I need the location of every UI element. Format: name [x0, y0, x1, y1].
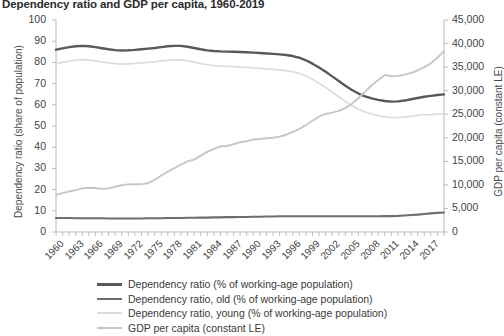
legend-item[interactable]: GDP per capita (constant LE): [97, 321, 387, 336]
legend-swatch-total: [97, 283, 122, 286]
series-line: [56, 213, 444, 219]
legend-label: GDP per capita (constant LE): [128, 322, 265, 334]
legend-label: Dependency ratio (% of working-age popul…: [128, 278, 353, 290]
legend-swatch-old: [97, 298, 122, 300]
legend-item[interactable]: Dependency ratio, old (% of working-age …: [97, 292, 387, 307]
legend-item[interactable]: Dependency ratio (% of working-age popul…: [97, 277, 387, 292]
series-line: [56, 60, 444, 118]
legend-label: Dependency ratio, old (% of working-age …: [128, 293, 373, 305]
legend-label: Dependency ratio, young (% of working-ag…: [128, 307, 387, 319]
series-line: [56, 46, 444, 102]
legend-swatch-gdp: [97, 327, 122, 329]
chart-legend: Dependency ratio (% of working-age popul…: [97, 277, 387, 335]
legend-swatch-young: [97, 312, 122, 314]
series-line: [56, 51, 444, 195]
legend-item[interactable]: Dependency ratio, young (% of working-ag…: [97, 306, 387, 321]
